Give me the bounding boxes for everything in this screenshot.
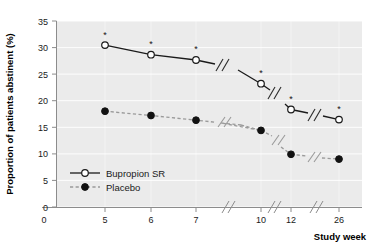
significance-star-w7: * (194, 44, 198, 54)
y-axis-title: Proportion of patients abstinent (%) (4, 33, 15, 195)
significance-star-w10: * (259, 68, 263, 78)
data-point-bupropion-w26 (336, 116, 343, 123)
data-point-bupropion-w6 (148, 51, 155, 58)
data-point-placebo-w10 (258, 127, 265, 134)
y-tick-label-30: 30 (38, 43, 48, 53)
data-point-placebo-w12 (288, 151, 295, 158)
data-point-placebo-w5 (102, 108, 109, 115)
legend-marker-filled-circle (82, 184, 89, 191)
x-tick-label-6: 6 (148, 215, 153, 225)
data-point-bupropion-w7 (193, 57, 200, 64)
y-tick-label-15: 15 (38, 123, 48, 133)
x-tick-label-5: 5 (102, 215, 107, 225)
y-axis-ticks (52, 21, 57, 207)
y-axis-tick-labels: 0 5 10 15 20 25 30 35 (38, 17, 48, 213)
x-tick-label-10: 10 (256, 215, 266, 225)
legend-label-placebo: Placebo (106, 182, 140, 193)
significance-star-w26: * (337, 104, 341, 114)
chart-container: 0 5 10 15 20 25 30 35 (0, 0, 369, 247)
significance-star-w6: * (149, 39, 153, 49)
y-tick-label-0: 0 (43, 203, 48, 213)
x-tick-label-0: 0 (41, 215, 46, 225)
y-tick-label-20: 20 (38, 96, 48, 106)
line-chart: 0 5 10 15 20 25 30 35 (0, 0, 369, 247)
x-tick-label-26: 26 (334, 215, 344, 225)
x-tick-label-7: 7 (193, 215, 198, 225)
y-tick-label-35: 35 (38, 17, 48, 27)
significance-star-w12: * (289, 94, 293, 104)
x-axis-tick-labels: 0 5 6 7 10 12 26 (41, 215, 344, 225)
x-axis-title: Study week (314, 231, 367, 242)
legend-marker-open-circle (82, 170, 89, 177)
y-tick-label-10: 10 (38, 149, 48, 159)
data-point-placebo-w7 (193, 117, 200, 124)
y-tick-label-25: 25 (38, 70, 48, 80)
y-tick-label-5: 5 (43, 176, 48, 186)
data-point-placebo-w6 (148, 112, 155, 119)
data-point-bupropion-w10 (258, 80, 265, 87)
x-tick-label-12: 12 (286, 215, 296, 225)
data-point-placebo-w26 (336, 156, 343, 163)
legend-label-bupropion-sr: Bupropion SR (106, 168, 165, 179)
data-point-bupropion-w5 (102, 42, 109, 49)
data-point-bupropion-w12 (288, 106, 295, 113)
x-axis-ticks (105, 208, 339, 213)
significance-star-w5: * (103, 30, 107, 40)
